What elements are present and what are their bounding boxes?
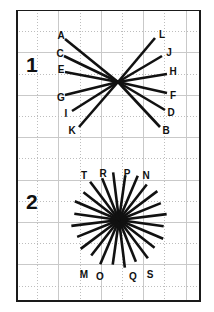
ray-label-l: L (159, 30, 165, 40)
ray-label-d: D (167, 108, 174, 118)
ray-label-s: S (147, 270, 154, 280)
ray-label-q: Q (129, 272, 137, 282)
ray-label-k: K (68, 126, 75, 136)
ray-label-o: O (96, 272, 104, 282)
figure-sheet: 1 2 ACEGIKBDFHJL TRPNMOQS (0, 0, 214, 312)
ray-label-i: I (65, 109, 68, 119)
ray-label-a: A (57, 31, 64, 41)
ray-label-m: M (80, 270, 88, 280)
ray-label-p: P (124, 169, 131, 179)
ray-label-f: F (170, 91, 176, 101)
ray-label-e: E (58, 65, 65, 75)
ray-label-b: B (162, 126, 169, 136)
ray-label-n: N (142, 171, 149, 181)
ray-label-t: T (81, 171, 87, 181)
ray-label-g: G (57, 93, 65, 103)
ray-label-r: R (99, 169, 106, 179)
ray-label-j: J (166, 48, 172, 58)
ray-label-h: H (169, 67, 176, 77)
figure-2-rays (0, 0, 214, 312)
ray-label-c: C (56, 49, 63, 59)
